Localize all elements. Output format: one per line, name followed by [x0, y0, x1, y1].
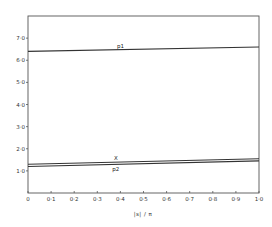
x-tick-label: 0·4 [116, 196, 125, 202]
x-tick-label: 0·6 [162, 196, 171, 202]
x-tick-label: 0·2 [70, 196, 79, 202]
y-tick-label: 7·0 [16, 35, 25, 41]
series-label-p2: p2 [112, 166, 119, 173]
y-tick-label: 5·0 [16, 79, 25, 85]
series-label-p1: p1 [117, 43, 124, 50]
plot-frame [28, 16, 259, 193]
x-tick-label: 0·5 [139, 196, 148, 202]
y-tick-label: 2·0 [16, 146, 25, 152]
series-line-p1 [28, 47, 259, 51]
x-tick-label: 1·0 [255, 196, 264, 202]
x-tick-label: 0·3 [93, 196, 102, 202]
x-tick-label: 0·1 [47, 196, 56, 202]
x-tick-label: 0 [26, 196, 30, 202]
x-tick-label: 0·8 [208, 196, 217, 202]
x-axis-label: |s| / π [134, 211, 153, 218]
x-tick-label: 0·7 [185, 196, 194, 202]
y-tick-label: 6·0 [16, 57, 25, 63]
y-axis: 1·02·03·04·05·06·07·0 [16, 35, 28, 174]
y-tick-label: 3·0 [16, 124, 25, 130]
chart: 1·02·03·04·05·06·07·0 00·10·20·30·40·50·… [0, 0, 272, 227]
series-label-x: X [114, 155, 118, 161]
plot-border [28, 16, 259, 193]
y-tick-label: 1·0 [16, 168, 25, 174]
series-lines: p1Xp2 [28, 43, 259, 174]
y-tick-label: 4·0 [16, 102, 25, 108]
x-tick-label: 0·9 [232, 196, 241, 202]
